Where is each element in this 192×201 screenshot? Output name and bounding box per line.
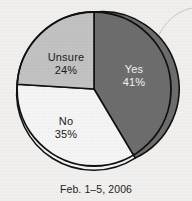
slice-label-unsure: Unsure xyxy=(48,51,85,63)
slice-label-no: No xyxy=(59,115,73,127)
pie-chart-svg: Yes 41% No 35% Unsure 24% Feb. 1–5, 2006 xyxy=(0,0,192,201)
slice-value-no: 35% xyxy=(55,128,78,140)
slice-value-unsure: 24% xyxy=(55,64,78,76)
chart-caption: Feb. 1–5, 2006 xyxy=(60,183,132,195)
slice-value-yes: 41% xyxy=(123,76,146,88)
slice-label-yes: Yes xyxy=(125,63,144,75)
pie-chart-figure: Yes 41% No 35% Unsure 24% Feb. 1–5, 2006 xyxy=(0,0,192,201)
